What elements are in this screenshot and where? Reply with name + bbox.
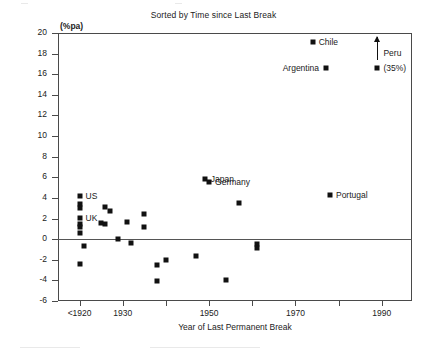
point-annotation-label: Peru bbox=[383, 48, 401, 58]
x-axis-title: Year of Last Permanent Break bbox=[58, 322, 412, 332]
data-point-marker bbox=[142, 224, 147, 229]
data-point-marker bbox=[254, 245, 259, 250]
y-axis-tick-mark bbox=[52, 54, 58, 55]
data-point-marker bbox=[81, 244, 86, 249]
data-point-marker bbox=[310, 40, 315, 45]
y-axis-tick-label: 20 bbox=[38, 27, 47, 37]
y-axis-tick-label: 2 bbox=[42, 213, 47, 223]
data-point-marker bbox=[155, 263, 160, 268]
data-point-marker bbox=[77, 193, 82, 198]
x-axis-tick-mark bbox=[123, 301, 124, 306]
y-axis-tick-mark bbox=[52, 95, 58, 96]
scan-artifact bbox=[175, 3, 182, 4]
y-axis-tick-mark bbox=[52, 280, 58, 281]
point-annotation-label: Portugal bbox=[336, 190, 368, 200]
plot-area bbox=[58, 33, 412, 301]
x-axis-tick-label: 1970 bbox=[286, 308, 305, 318]
off-scale-up-arrow-icon bbox=[377, 37, 378, 60]
y-axis-tick-mark bbox=[52, 33, 58, 34]
zero-reference-line bbox=[58, 239, 412, 240]
data-point-marker bbox=[163, 257, 168, 262]
data-point-marker bbox=[375, 66, 380, 71]
y-axis-tick-label: 18 bbox=[38, 48, 47, 58]
y-axis-tick-label: 16 bbox=[38, 68, 47, 78]
scan-artifact bbox=[150, 347, 260, 348]
x-axis-tick-mark bbox=[382, 301, 383, 306]
data-point-marker bbox=[155, 279, 160, 284]
y-axis-tick-label: 14 bbox=[38, 89, 47, 99]
point-annotation-label: UK bbox=[86, 213, 98, 223]
chart-title: Sorted by Time since Last Break bbox=[0, 10, 427, 20]
y-axis-tick-mark bbox=[52, 198, 58, 199]
y-axis-tick-mark bbox=[52, 74, 58, 75]
data-point-marker bbox=[77, 224, 82, 229]
data-point-marker bbox=[125, 220, 130, 225]
y-axis-tick-mark bbox=[52, 239, 58, 240]
data-point-marker bbox=[103, 221, 108, 226]
data-point-marker bbox=[194, 254, 199, 259]
y-axis-tick-mark bbox=[52, 260, 58, 261]
point-annotation-label: Chile bbox=[319, 37, 338, 47]
y-axis-tick-label: 4 bbox=[42, 192, 47, 202]
y-axis-tick-mark bbox=[52, 157, 58, 158]
y-axis-tick-label: -6 bbox=[39, 295, 47, 305]
y-axis-tick-mark bbox=[52, 177, 58, 178]
y-axis-tick-label: 0 bbox=[42, 233, 47, 243]
data-point-marker bbox=[142, 211, 147, 216]
point-annotation-label: Germany bbox=[215, 177, 250, 187]
data-point-marker bbox=[77, 206, 82, 211]
data-point-marker bbox=[107, 209, 112, 214]
x-axis-tick-mark bbox=[252, 301, 253, 306]
y-axis-tick-label: -4 bbox=[39, 274, 47, 284]
y-axis-tick-mark bbox=[52, 115, 58, 116]
data-point-marker bbox=[129, 240, 134, 245]
data-point-marker bbox=[77, 230, 82, 235]
x-axis-tick-label: 1930 bbox=[113, 308, 132, 318]
data-point-marker bbox=[323, 66, 328, 71]
x-axis-tick-mark bbox=[339, 301, 340, 306]
x-axis-tick-label: <1920 bbox=[68, 308, 92, 318]
point-annotation-label: US bbox=[86, 191, 98, 201]
data-point-marker bbox=[77, 261, 82, 266]
y-axis-unit-label: (%pa) bbox=[60, 21, 83, 31]
y-axis-tick-mark bbox=[52, 136, 58, 137]
x-axis-tick-label: 1990 bbox=[372, 308, 391, 318]
y-axis-tick-label: -2 bbox=[39, 254, 47, 264]
x-axis-tick-mark bbox=[295, 301, 296, 306]
x-axis-tick-mark bbox=[80, 301, 81, 306]
y-axis-tick-mark bbox=[52, 219, 58, 220]
y-axis-tick-label: 12 bbox=[38, 109, 47, 119]
point-annotation-label: Argentina bbox=[283, 63, 319, 73]
y-axis-tick-mark bbox=[52, 301, 58, 302]
point-annotation-label: (35%) bbox=[383, 63, 406, 73]
scan-artifact bbox=[20, 347, 80, 348]
x-axis-tick-label: 1950 bbox=[200, 308, 219, 318]
data-point-marker bbox=[327, 192, 332, 197]
y-axis-tick-label: 10 bbox=[38, 130, 47, 140]
scatter-chart-figure: Sorted by Time since Last Break (%pa) 20… bbox=[0, 0, 427, 354]
data-point-marker bbox=[77, 215, 82, 220]
data-point-marker bbox=[116, 236, 121, 241]
scan-artifact bbox=[21, 3, 28, 4]
x-axis-tick-mark bbox=[166, 301, 167, 306]
y-axis-tick-label: 8 bbox=[42, 151, 47, 161]
data-point-marker bbox=[224, 278, 229, 283]
x-axis-tick-mark bbox=[209, 301, 210, 306]
data-point-marker bbox=[237, 200, 242, 205]
y-axis-tick-label: 6 bbox=[42, 171, 47, 181]
